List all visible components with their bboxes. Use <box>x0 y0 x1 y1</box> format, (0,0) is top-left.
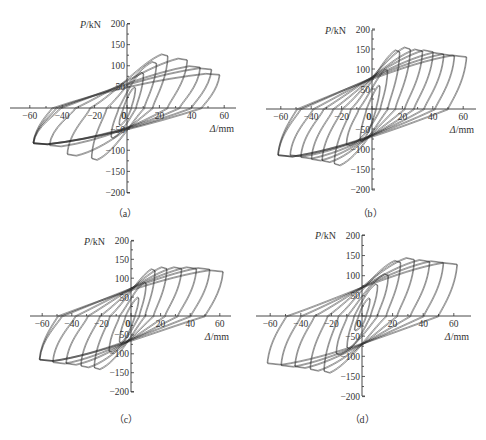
x-tick-label: −20 <box>87 111 102 121</box>
y-tick-label: −50 <box>114 330 129 340</box>
y-tick-label: −100 <box>340 352 360 362</box>
y-tick-label: −100 <box>350 145 370 155</box>
x-tick-label: 20 <box>388 319 398 329</box>
y-tick-label: 100 <box>346 271 361 281</box>
y-axis-title: P/kN <box>79 19 101 30</box>
x-tick-label: 60 <box>215 319 225 329</box>
panel-c-chart: −60−40−200204060−200−150−100−50501001502… <box>30 236 231 425</box>
panel-caption: （b） <box>358 208 383 219</box>
x-tick-label: −40 <box>293 319 308 329</box>
y-tick-label: 200 <box>356 25 371 35</box>
y-tick-label: −150 <box>105 167 125 177</box>
y-tick-label: 150 <box>111 40 126 50</box>
x-tick-label: −20 <box>324 319 339 329</box>
y-tick-label: 200 <box>346 231 361 241</box>
y-tick-label: −200 <box>109 387 129 397</box>
y-tick-label: −100 <box>105 146 125 156</box>
y-tick-label: −200 <box>350 185 370 195</box>
y-tick-label: −200 <box>340 392 360 402</box>
panel-d-chart: −60−40−200204060−200−150−100−50501001502… <box>256 230 471 425</box>
hysteresis-loop-repeat <box>282 262 444 368</box>
hysteresis-figure: −60−40−200204060−200−150−100−50501001502… <box>0 0 486 440</box>
y-tick-label: 50 <box>361 85 371 95</box>
x-tick-label: 20 <box>155 111 165 121</box>
panel-b-chart: −60−40−200204060−200−150−100−50501001502… <box>266 25 476 220</box>
y-tick-label: −150 <box>109 368 129 378</box>
x-tick-label: −60 <box>263 319 278 329</box>
y-tick-label: −200 <box>105 188 125 198</box>
x-tick-label: −20 <box>334 112 349 122</box>
panel-caption: （d） <box>350 414 375 425</box>
axes: −60−40−200204060−200−150−100−50501001502… <box>256 230 471 402</box>
x-tick-label: 40 <box>428 112 438 122</box>
x-tick-label: 40 <box>185 319 195 329</box>
y-axis-title: P/kN <box>83 236 105 247</box>
x-tick-label: −60 <box>22 111 37 121</box>
y-tick-label: −50 <box>110 125 125 135</box>
y-axis-title: P/kN <box>314 230 336 241</box>
origin-label: 0 <box>121 111 126 121</box>
x-tick-label: 20 <box>156 319 166 329</box>
y-tick-label: 100 <box>356 65 371 75</box>
x-tick-label: 60 <box>219 111 229 121</box>
y-tick-label: 50 <box>351 291 361 301</box>
x-axis-title: Δ/mm <box>204 331 229 342</box>
x-axis-title: Δ/mm <box>449 124 474 135</box>
x-tick-label: −60 <box>35 319 50 329</box>
y-tick-label: 200 <box>115 236 130 246</box>
hysteresis-loop-repeat <box>268 263 458 365</box>
y-tick-label: 150 <box>356 45 371 55</box>
x-axis-title: Δ/mm <box>444 331 469 342</box>
x-tick-label: 40 <box>187 111 197 121</box>
x-tick-label: −40 <box>304 112 319 122</box>
y-tick-label: −100 <box>109 349 129 359</box>
panel-caption: （a） <box>113 208 137 219</box>
axes: −60−40−200204060−200−150−100−50501001502… <box>30 236 231 397</box>
y-tick-label: −150 <box>350 165 370 175</box>
y-tick-label: 150 <box>115 255 130 265</box>
y-tick-label: 100 <box>115 274 130 284</box>
x-tick-label: −20 <box>94 319 109 329</box>
y-tick-label: 50 <box>120 293 130 303</box>
x-tick-label: −60 <box>273 112 288 122</box>
y-tick-label: −150 <box>340 372 360 382</box>
panel-a-chart: −60−40−200204060−200−150−100−50501001502… <box>10 19 236 219</box>
origin-label: 0 <box>356 319 361 329</box>
origin-label: 0 <box>366 112 371 122</box>
y-tick-label: 150 <box>346 251 361 261</box>
x-tick-label: 60 <box>458 112 468 122</box>
x-tick-label: −40 <box>55 111 70 121</box>
x-tick-label: −40 <box>64 319 79 329</box>
hysteresis-loop-repeat <box>295 260 430 368</box>
x-axis-title: Δ/mm <box>209 123 234 134</box>
y-tick-label: 100 <box>111 61 126 71</box>
x-tick-label: 40 <box>418 319 428 329</box>
panel-caption: （c） <box>114 414 138 425</box>
y-tick-label: 50 <box>116 82 126 92</box>
y-tick-label: −50 <box>355 125 370 135</box>
x-tick-label: 20 <box>398 112 408 122</box>
origin-label: 0 <box>125 319 130 329</box>
y-tick-label: −50 <box>345 332 360 342</box>
y-axis-title: P/kN <box>324 25 346 36</box>
x-tick-label: 60 <box>449 319 459 329</box>
y-tick-label: 200 <box>111 19 126 29</box>
